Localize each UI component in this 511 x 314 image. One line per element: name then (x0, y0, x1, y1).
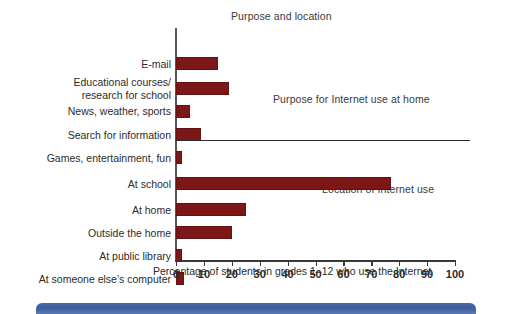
category-label-news-weather-sports: News, weather, sports (68, 105, 171, 118)
bar-at-home (176, 203, 246, 216)
plot-area: 0102030405060708090100 (176, 28, 455, 260)
category-label-at-school: At school (128, 178, 171, 191)
category-label-educational-courses-line1: Educational courses/ (74, 76, 171, 89)
bar-email (176, 57, 218, 70)
chart-figure: Purpose and location Purpose for Interne… (0, 0, 511, 314)
category-label-at-someone-elses-computer: At someone else’s computer (39, 273, 171, 286)
bar-at-school (176, 177, 391, 190)
bar-games-entertainment-fun (176, 151, 182, 164)
chart-title: Purpose and location (231, 10, 332, 22)
category-label-email: E-mail (141, 58, 171, 71)
footer-accent-bar (36, 303, 476, 314)
tick-mark-100 (455, 260, 456, 266)
tick-label-100: 100 (446, 268, 464, 280)
value-axis-title: Percentage of students in grades 1–12 wh… (153, 265, 431, 277)
panel-divider (176, 140, 470, 141)
category-label-column: E-mail Educational courses/research for … (0, 28, 171, 260)
bar-news-weather-sports (176, 105, 190, 118)
category-label-search-for-information: Search for information (68, 129, 171, 142)
category-label-games-entertainment-fun: Games, entertainment, fun (47, 152, 171, 165)
category-label-educational-courses-line2: research for school (74, 89, 171, 102)
category-label-at-public-library: At public library (99, 250, 171, 263)
category-label-outside-the-home: Outside the home (88, 227, 171, 240)
bar-educational-courses (176, 82, 229, 95)
bar-outside-the-home (176, 226, 232, 239)
category-label-at-home: At home (132, 204, 171, 217)
category-label-educational-courses: Educational courses/research for school (74, 76, 171, 101)
